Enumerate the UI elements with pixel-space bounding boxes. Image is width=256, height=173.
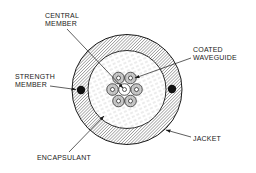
coated-waveguide	[125, 95, 137, 107]
label-jacket: JACKET	[193, 135, 221, 143]
label-encapsulant: ENCAPSULANT	[37, 154, 91, 162]
jacket-leader	[166, 130, 191, 137]
coated-waveguide	[113, 95, 125, 107]
label-strength-member: STRENGTH MEMBER	[15, 73, 55, 89]
label-central-member: CENTRAL MEMBER	[45, 12, 79, 28]
strength-member-right	[168, 85, 176, 93]
coated-waveguide	[125, 72, 137, 84]
coated-waveguide	[107, 84, 119, 96]
label-coated-waveguide: COATED WAVEGUIDE	[193, 46, 237, 62]
coated-waveguide	[131, 84, 143, 96]
strength-member-left	[77, 86, 85, 94]
coated-waveguide	[113, 72, 125, 84]
